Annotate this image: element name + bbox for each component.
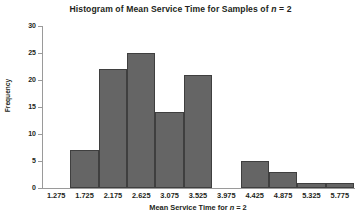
bar-slot [269,26,297,188]
y-axis-tick-label: 0 [6,184,36,191]
y-axis-tick-label: 15 [6,103,36,110]
histogram-bar [155,112,183,188]
bar-slot [155,26,183,188]
plot-area [42,26,354,188]
x-axis-labels-group: 1.275 1.725 2.175 2.625 3.075 3.525 3.97… [42,191,354,200]
x-axis-line [42,188,355,189]
y-axis-tick-label: 25 [6,49,36,56]
histogram-bar [241,161,269,188]
y-axis-tick-label: 30 [6,22,36,29]
y-axis-tick-label: 20 [6,76,36,83]
x-axis-tick-label: 2.175 [99,191,127,200]
bar-slot [212,26,240,188]
y-axis-tick-label: 5 [6,157,36,164]
x-axis-tick-label: 1.275 [42,191,70,200]
histogram-bar [127,53,155,188]
x-axis-title: Mean Service Time for n = 2 [42,203,354,212]
y-axis-tick-label: 10 [6,130,36,137]
histogram-bar [70,150,98,188]
bar-slot [127,26,155,188]
histogram-bar [99,69,127,188]
x-axis-tick-label: 2.625 [127,191,155,200]
x-axis-title-before: Mean Service Time for [149,203,229,212]
x-axis-title-after: = 2 [234,203,247,212]
y-axis-title: Frequency [4,66,11,126]
x-axis-tick-label: 3.075 [155,191,183,200]
x-axis-tick-label: 4.425 [241,191,269,200]
histogram-chart: Histogram of Mean Service Time for Sampl… [0,0,361,219]
histogram-bar [269,172,297,188]
bar-slot [42,26,70,188]
x-axis-tick-label: 5.325 [297,191,325,200]
x-axis-tick-label: 3.975 [212,191,240,200]
bar-slot [326,26,354,188]
bar-slot [70,26,98,188]
bar-slot [297,26,325,188]
bars-group [42,26,354,188]
histogram-bar [326,183,354,188]
x-axis-tick-label: 1.725 [70,191,98,200]
x-axis-tick-label: 4.875 [269,191,297,200]
bar-slot [241,26,269,188]
chart-title: Histogram of Mean Service Time for Sampl… [0,4,361,14]
x-axis-tick-label: 5.775 [326,191,354,200]
histogram-bar [184,75,212,188]
chart-title-before: Histogram of Mean Service Time for Sampl… [69,4,271,14]
bar-slot [99,26,127,188]
x-axis-tick-label: 3.525 [184,191,212,200]
bar-slot [184,26,212,188]
histogram-bar [297,183,325,188]
chart-title-after: = 2 [277,4,292,14]
